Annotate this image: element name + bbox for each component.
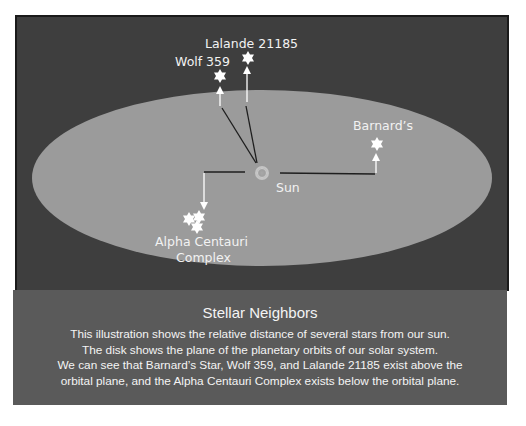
lalande-21185-star-icon bbox=[242, 51, 254, 65]
caption-line: This illustration shows the relative dis… bbox=[21, 327, 499, 343]
caption-title: Stellar Neighbors bbox=[13, 304, 507, 321]
alpha-centauri-label-line1: Alpha Centauri bbox=[155, 234, 248, 249]
wolf-359-star-icon bbox=[214, 69, 226, 83]
barnards-label: Barnard’s bbox=[353, 118, 413, 133]
lalande-21185-label: Lalande 21185 bbox=[205, 36, 298, 51]
alpha-centauri-label-line2: Complex bbox=[176, 250, 231, 265]
caption-panel: Stellar Neighbors This illustration show… bbox=[13, 290, 507, 405]
wolf-359-label: Wolf 359 bbox=[175, 54, 230, 69]
caption-line: The disk shows the plane of the planetar… bbox=[21, 343, 499, 359]
sun-icon bbox=[256, 167, 268, 179]
caption-body: This illustration shows the relative dis… bbox=[13, 327, 507, 389]
caption-line: orbital plane, and the Alpha Centauri Co… bbox=[21, 374, 499, 390]
sun-label: Sun bbox=[276, 180, 300, 195]
caption-line: We can see that Barnard’s Star, Wolf 359… bbox=[21, 358, 499, 374]
